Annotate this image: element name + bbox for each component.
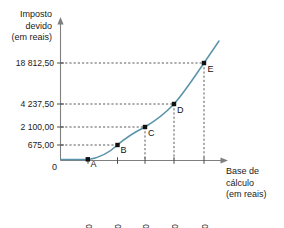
x-tick-label-37500: 37 500,00	[141, 224, 151, 228]
tax-curve-chart: A B C D E 675,00 2 100,00 4 237,50 18 81…	[0, 0, 284, 228]
point-label-C: C	[148, 128, 155, 138]
x-axis-title-line3: (em reais)	[226, 189, 267, 199]
x-tick-label-28000: 28 000,00	[113, 224, 123, 228]
y-axis-title-line2: devido	[25, 21, 52, 31]
y-tick-label-675: 675,00	[28, 140, 55, 150]
x-tick-label-100000: 100 000,00	[200, 224, 210, 228]
y-axis-title-line1: Imposto	[20, 9, 52, 19]
y-axis-arrow-icon	[57, 17, 63, 25]
x-axis-title-line1: Base de	[226, 166, 259, 176]
origin-label: 0	[52, 162, 57, 172]
y-tick-label-18812: 18 812,50	[16, 58, 54, 68]
chart-canvas: A B C D E 675,00 2 100,00 4 237,50 18 81…	[0, 0, 284, 228]
datapoint-A	[86, 157, 90, 161]
x-tick-label-47000: 47 000,00	[170, 224, 180, 228]
point-label-A: A	[91, 159, 97, 169]
x-axis-arrow-icon	[221, 157, 229, 163]
x-axis-title-line2: cálculo	[226, 178, 254, 188]
datapoint-B	[115, 143, 119, 147]
y-tick-label-4237: 4 237,50	[21, 99, 55, 109]
y-tick-label-2100: 2 100,00	[21, 122, 55, 132]
datapoint-C	[143, 125, 147, 129]
point-label-E: E	[208, 64, 214, 74]
datapoint-E	[202, 61, 206, 65]
y-axis-title-line3: (em reais)	[11, 32, 52, 42]
x-tick-label-19000: 19 000,00	[84, 224, 94, 228]
tax-curve-line	[61, 41, 219, 160]
point-label-B: B	[121, 145, 127, 155]
datapoint-D	[172, 102, 176, 106]
point-label-D: D	[177, 105, 184, 115]
